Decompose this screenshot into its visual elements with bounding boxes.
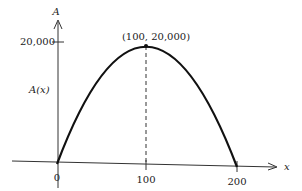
x-axis-label: x [284,161,290,172]
max-point-label: (100, 20,000) [122,31,190,42]
y-axis-label: A [51,6,59,17]
curve-label: A(x) [28,84,50,95]
max-point-dot [144,44,148,48]
curve-A-of-x [57,47,237,167]
x-tick-label-0: 0 [54,172,60,183]
chart: A x 20,000 A(x) 0 100 200 (100, 20,000) [0,0,302,191]
y-tick-label-20000: 20,000 [20,36,55,47]
x-tick-label-100: 100 [136,174,155,185]
x-tick-label-200: 200 [227,176,246,187]
